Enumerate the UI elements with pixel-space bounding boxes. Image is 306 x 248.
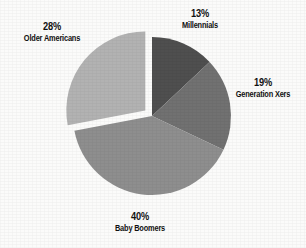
slice-percent-baby-boomers: 40% <box>98 211 182 222</box>
slice-percent-millennials: 13% <box>160 8 239 19</box>
pie-slices <box>66 31 231 195</box>
slice-label-baby-boomers: 40% Baby Boomers <box>92 211 188 233</box>
slice-percent-generation-xers: 19% <box>226 77 300 88</box>
slice-name-baby-boomers: Baby Boomers <box>99 224 182 233</box>
pie-chart-figure: 13% Millennials 19% Generation Xers 40% … <box>0 0 306 248</box>
pie-slice-older-americans[interactable] <box>66 31 145 125</box>
slice-percent-older-americans: 28% <box>12 21 93 32</box>
slice-label-generation-xers: 19% Generation Xers <box>221 77 305 99</box>
slice-label-millennials: 13% Millennials <box>155 8 245 30</box>
slice-name-millennials: Millennials <box>161 21 238 30</box>
slice-label-older-americans: 28% Older Americans <box>6 21 98 43</box>
slice-name-generation-xers: Generation Xers <box>227 90 299 99</box>
slice-name-older-americans: Older Americans <box>12 34 91 43</box>
